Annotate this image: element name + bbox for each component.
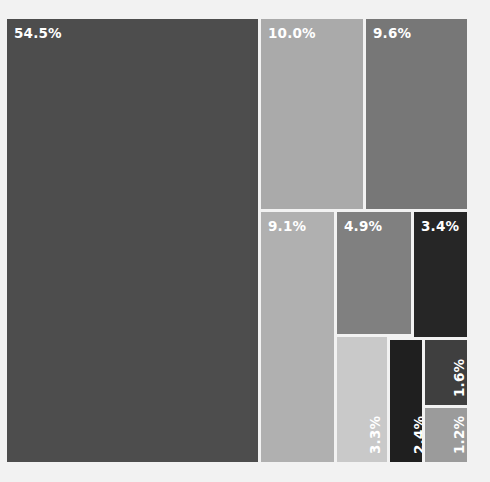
treemap-tile-label: 3.4% [421,220,459,234]
treemap-tile[interactable]: 1.2% [425,408,467,462]
treemap-tile-label: 54.5% [14,27,62,41]
treemap-tile[interactable]: 9.1% [261,212,334,462]
treemap-tile-label: 1.2% [453,416,467,454]
treemap-tile[interactable]: 54.5% [7,19,258,462]
treemap-tile[interactable]: 9.6% [366,19,467,209]
treemap-tile[interactable]: 2.4% [390,340,422,462]
treemap-tile[interactable]: 3.4% [414,212,467,337]
treemap-tile-label: 9.1% [268,220,306,234]
treemap-tile[interactable]: 3.3% [337,337,387,462]
treemap-tile[interactable]: 4.9% [337,212,411,334]
treemap-tile-label: 10.0% [268,27,316,41]
treemap-tile[interactable]: 10.0% [261,19,363,209]
treemap-tile[interactable]: 1.6% [425,340,467,405]
treemap-tile-label: 1.6% [453,359,467,397]
treemap-tile-label: 9.6% [373,27,411,41]
treemap-tile-label: 2.4% [413,416,422,454]
treemap-figure: 54.5%10.0%9.6%9.1%4.9%3.4%3.3%2.4%1.6%1.… [0,0,490,482]
treemap-tile-label: 3.3% [369,416,383,454]
treemap-plot-area: 54.5%10.0%9.6%9.1%4.9%3.4%3.3%2.4%1.6%1.… [7,19,467,462]
treemap-tile-label: 4.9% [344,220,382,234]
